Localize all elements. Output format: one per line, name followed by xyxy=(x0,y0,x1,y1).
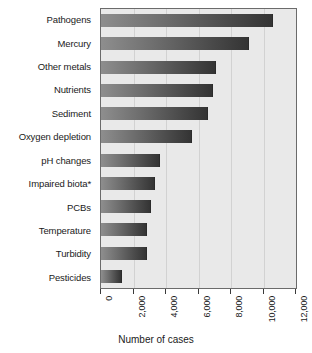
bar xyxy=(101,177,155,190)
bar-chart-figure: PathogensMercuryOther metalsNutrientsSed… xyxy=(0,0,312,353)
plot-area xyxy=(100,8,297,289)
value-axis: 02,0004,0006,0008,00010,00012,000 xyxy=(100,289,297,297)
bar xyxy=(101,37,249,50)
tick-label: 4,000 xyxy=(169,296,179,318)
bars-layer xyxy=(101,9,296,288)
tick-label: 10,000 xyxy=(267,296,277,322)
tick-mark xyxy=(100,289,101,294)
bar-row xyxy=(101,195,296,218)
category-label: PCBs xyxy=(0,195,96,218)
bar-row xyxy=(101,265,296,288)
category-label: Impaired biota* xyxy=(0,172,96,195)
category-label: Turbidity xyxy=(0,242,96,265)
x-axis-title: Number of cases xyxy=(0,334,312,345)
category-label: Temperature xyxy=(0,219,96,242)
bar-row xyxy=(101,149,296,172)
bar-row xyxy=(101,9,296,32)
bar xyxy=(101,247,147,260)
bar-row xyxy=(101,79,296,102)
tick-mark xyxy=(295,289,296,294)
category-label: Nutrients xyxy=(0,78,96,101)
bar-row xyxy=(101,125,296,148)
category-label: Other metals xyxy=(0,55,96,78)
tick-label: 2,000 xyxy=(137,296,147,318)
category-label: pH changes xyxy=(0,149,96,172)
bar xyxy=(101,200,151,213)
bar xyxy=(101,270,122,283)
bar-row xyxy=(101,102,296,125)
tick-label: 8,000 xyxy=(234,296,244,318)
bar-row xyxy=(101,32,296,55)
tick-mark xyxy=(230,289,231,294)
bar xyxy=(101,61,216,74)
bar xyxy=(101,154,160,167)
bar xyxy=(101,14,273,27)
tick-mark xyxy=(263,289,264,294)
category-label: Mercury xyxy=(0,31,96,54)
bar-row xyxy=(101,172,296,195)
tick-label: 0 xyxy=(104,296,114,301)
bar xyxy=(101,84,213,97)
tick-mark xyxy=(133,289,134,294)
category-label: Oxygen depletion xyxy=(0,125,96,148)
bar-row xyxy=(101,218,296,241)
bar-row xyxy=(101,242,296,265)
category-label: Pesticides xyxy=(0,266,96,289)
bar xyxy=(101,223,147,236)
category-label: Pathogens xyxy=(0,8,96,31)
tick-mark xyxy=(198,289,199,294)
category-axis: PathogensMercuryOther metalsNutrientsSed… xyxy=(0,8,96,289)
bar-row xyxy=(101,56,296,79)
tick-label: 12,000 xyxy=(299,296,309,322)
bar xyxy=(101,107,208,120)
tick-mark xyxy=(165,289,166,294)
category-label: Sediment xyxy=(0,102,96,125)
tick-label: 6,000 xyxy=(202,296,212,318)
bar xyxy=(101,130,192,143)
